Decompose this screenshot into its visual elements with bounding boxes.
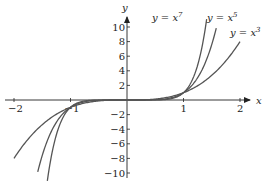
x-axis-label: x	[256, 95, 262, 106]
y-tick-label: 2	[119, 80, 125, 91]
y-tick-label: 8	[119, 36, 125, 47]
y-tick-label: −2	[110, 109, 125, 120]
x-tick-label: 1	[181, 103, 187, 114]
label-x3: y = x3	[229, 26, 261, 38]
label-x7: y = x7	[151, 11, 183, 23]
x-tick-label: −2	[8, 103, 23, 114]
y-tick-label: −10	[104, 168, 125, 179]
y-tick-label: 10	[112, 22, 125, 33]
label-x5: y = x5	[206, 11, 238, 23]
y-tick-label: −6	[110, 138, 125, 149]
x-tick-label: 2	[237, 103, 243, 114]
chart-canvas: −2−112 108642−2−4−6−8−10 x y y = x7 y = …	[0, 0, 264, 185]
y-tick-label: −4	[110, 124, 125, 135]
y-tick-label: 4	[119, 65, 125, 76]
y-axis-label: y	[121, 2, 128, 13]
y-tick-label: −8	[110, 153, 125, 164]
y-tick-label: 6	[119, 51, 125, 62]
